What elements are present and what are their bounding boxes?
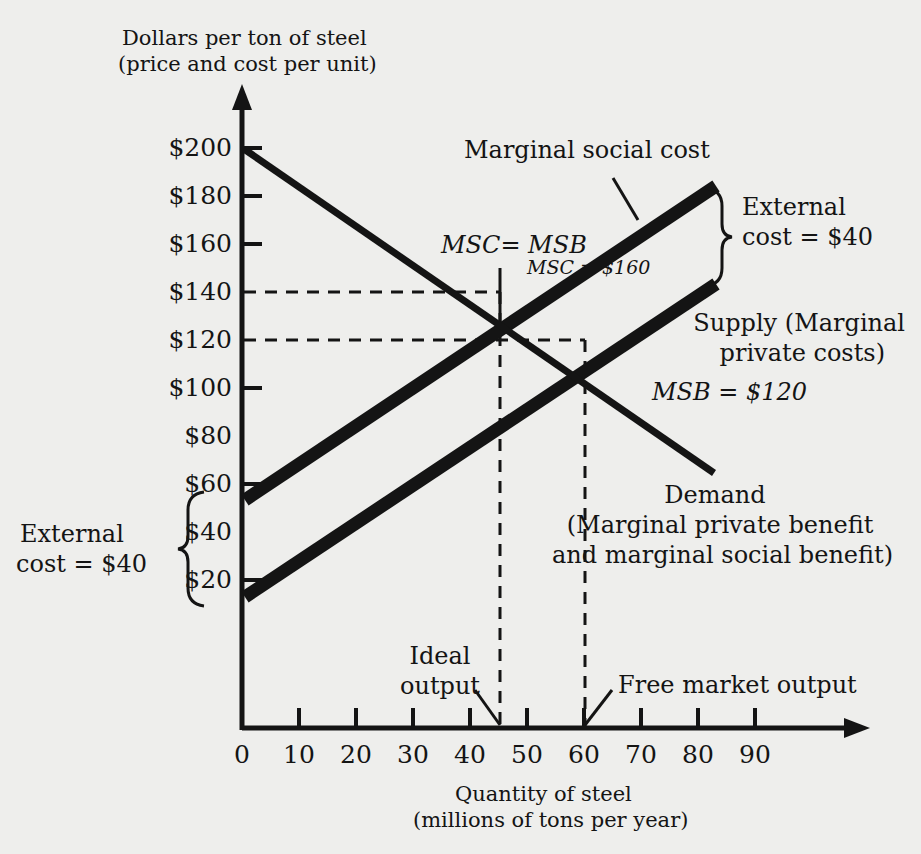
- x-axis-arrow: [844, 718, 870, 738]
- label-external-cost-right-line2: cost = $40: [742, 224, 873, 252]
- y-tick-label: $120: [122, 325, 232, 354]
- y-tick-label: $180: [122, 181, 232, 210]
- x-tick-label: 70: [611, 740, 671, 769]
- y-axis-ticks: [242, 148, 262, 580]
- y-tick-label: $100: [122, 373, 232, 402]
- x-tick-label: 80: [668, 740, 728, 769]
- label-external-cost-right-line1: External: [742, 194, 846, 222]
- label-demand-line2: (Marginal private benefit: [555, 512, 885, 540]
- brace-external-cost-right: [706, 188, 732, 286]
- label-msc-value: MSC = $160: [527, 256, 650, 278]
- x-tick-label: 10: [269, 740, 329, 769]
- x-tick-label: 60: [554, 740, 614, 769]
- y-tick-label: $160: [122, 229, 232, 258]
- label-external-cost-left-line1: External: [20, 521, 124, 549]
- label-free-market-output: Free market output: [618, 672, 857, 700]
- x-tick-label: 40: [440, 740, 500, 769]
- label-msb-value: MSB = $120: [652, 379, 807, 407]
- y-tick-label: $80: [122, 421, 232, 450]
- label-supply-line2: private costs): [600, 340, 885, 368]
- y-tick-label: $60: [122, 469, 232, 498]
- y-tick-label: $40: [122, 517, 232, 546]
- label-marginal-social-cost: Marginal social cost: [464, 137, 710, 165]
- label-ideal-output-line2: output: [375, 673, 505, 701]
- leader-marginal-social-cost: [613, 178, 638, 220]
- x-tick-label: 90: [725, 740, 785, 769]
- label-external-cost-left-line2: cost = $40: [16, 551, 147, 579]
- label-ideal-output-line1: Ideal: [375, 643, 505, 671]
- label-demand-line1: Demand: [600, 482, 830, 510]
- x-tick-label: 50: [497, 740, 557, 769]
- x-axis-title-line2: (millions of tons per year): [413, 808, 688, 832]
- x-axis-ticks: [299, 708, 755, 728]
- y-axis-title-line2: (price and cost per unit): [118, 52, 377, 76]
- label-demand-line3: and marginal social benefit): [540, 542, 905, 570]
- x-tick-label: 30: [383, 740, 443, 769]
- x-tick-label: 0: [212, 740, 272, 769]
- y-tick-label: $140: [122, 277, 232, 306]
- y-tick-label: $200: [122, 133, 232, 162]
- leader-free-market-output: [585, 690, 612, 725]
- y-axis-title-line1: Dollars per ton of steel: [122, 26, 367, 50]
- label-supply-line1: Supply (Marginal: [600, 310, 905, 338]
- x-axis-title-line1: Quantity of steel: [455, 782, 632, 806]
- y-axis-arrow: [232, 84, 252, 110]
- externality-chart-figure: Dollars per ton of steel (price and cost…: [0, 0, 921, 854]
- x-tick-label: 20: [326, 740, 386, 769]
